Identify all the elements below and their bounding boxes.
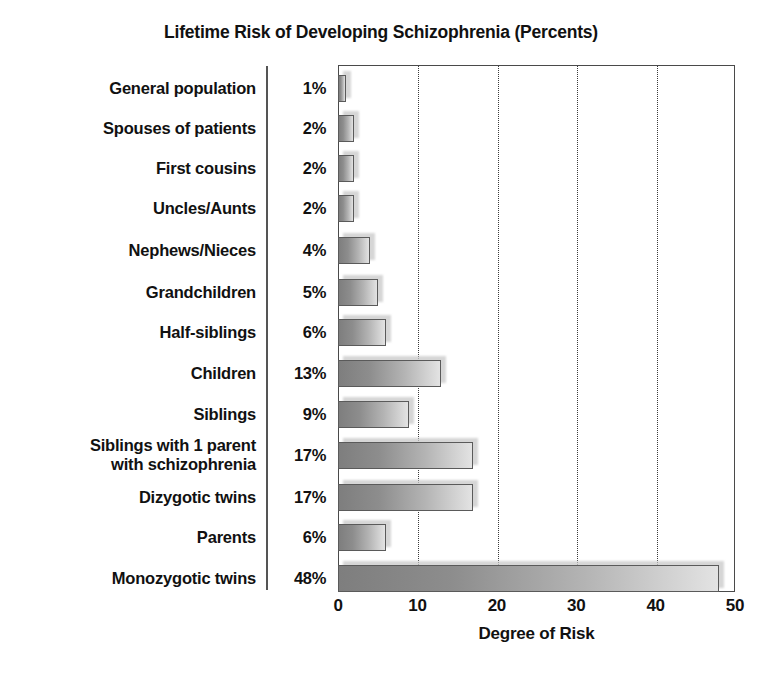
x-tick-label: 0 bbox=[308, 596, 368, 616]
value-label: 2% bbox=[276, 119, 326, 138]
value-label: 6% bbox=[276, 528, 326, 547]
schizophrenia-risk-bar-chart: Lifetime Risk of Developing Schizophreni… bbox=[0, 0, 774, 686]
x-tick-label: 10 bbox=[387, 596, 447, 616]
value-label: 1% bbox=[276, 79, 326, 98]
category-label: Uncles/Aunts bbox=[0, 199, 256, 218]
value-label: 6% bbox=[276, 323, 326, 342]
category-label: Dizygotic twins bbox=[0, 488, 256, 507]
category-label: First cousins bbox=[0, 159, 256, 178]
category-label: Spouses of patients bbox=[0, 119, 256, 138]
category-label: Siblings bbox=[0, 405, 256, 424]
category-label: Children bbox=[0, 364, 256, 383]
value-label: 48% bbox=[276, 569, 326, 588]
category-label: Parents bbox=[0, 528, 256, 547]
x-tick-label: 50 bbox=[705, 596, 765, 616]
category-label: Siblings with 1 parent with schizophreni… bbox=[0, 436, 256, 474]
value-label: 17% bbox=[276, 446, 326, 465]
category-label: Nephews/Nieces bbox=[0, 241, 256, 260]
category-label: Grandchildren bbox=[0, 283, 256, 302]
value-label: 17% bbox=[276, 488, 326, 507]
value-label: 9% bbox=[276, 405, 326, 424]
value-label: 5% bbox=[276, 283, 326, 302]
category-label: Monozygotic twins bbox=[0, 569, 256, 588]
value-label: 2% bbox=[276, 159, 326, 178]
x-tick-label: 20 bbox=[467, 596, 527, 616]
value-label: 2% bbox=[276, 199, 326, 218]
value-label: 13% bbox=[276, 364, 326, 383]
x-axis-title: Degree of Risk bbox=[338, 624, 735, 644]
category-label: General population bbox=[0, 79, 256, 98]
x-tick-label: 30 bbox=[546, 596, 606, 616]
rows-layer: General population1%Spouses of patients2… bbox=[0, 0, 774, 686]
value-label: 4% bbox=[276, 241, 326, 260]
x-tick-label: 40 bbox=[626, 596, 686, 616]
category-label: Half-siblings bbox=[0, 323, 256, 342]
x-axis: 01020304050 bbox=[338, 592, 735, 622]
